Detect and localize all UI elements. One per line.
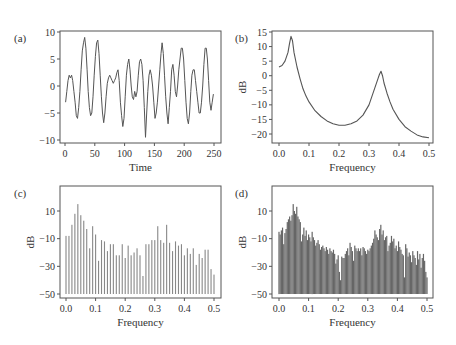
y-tick-label: −5 xyxy=(44,108,55,119)
data-bar xyxy=(71,225,72,294)
data-bar xyxy=(294,211,295,294)
data-bar xyxy=(378,240,379,294)
x-axis-label: Frequency xyxy=(329,316,376,328)
data-bar xyxy=(148,244,149,294)
data-bar xyxy=(328,254,329,294)
data-bar xyxy=(136,248,137,294)
data-bar xyxy=(333,250,334,294)
data-line xyxy=(279,36,429,137)
data-bar xyxy=(327,250,328,294)
data-bar xyxy=(342,258,343,294)
data-bar xyxy=(336,259,337,294)
y-tick-label: −10 xyxy=(251,99,267,110)
x-tick-label: 0.4 xyxy=(391,303,404,314)
data-bar xyxy=(89,248,90,294)
data-bar xyxy=(278,232,279,294)
data-bar xyxy=(289,217,290,295)
data-bar xyxy=(386,236,387,294)
x-tick-label: 0.5 xyxy=(423,148,436,159)
data-bar xyxy=(303,228,304,294)
data-bar xyxy=(345,254,346,294)
data-bar xyxy=(331,251,332,294)
data-bar xyxy=(349,243,350,294)
data-bar xyxy=(119,255,120,294)
data-bar xyxy=(360,248,361,294)
data-bar xyxy=(332,253,333,295)
data-bar xyxy=(291,215,292,294)
data-bar xyxy=(352,251,353,294)
data-bar xyxy=(92,226,93,294)
y-tick-label: −5 xyxy=(256,85,267,96)
data-bar xyxy=(377,237,378,294)
data-bar xyxy=(417,251,418,294)
data-bar xyxy=(361,255,362,294)
data-bar xyxy=(172,251,173,294)
data-bar xyxy=(393,239,394,294)
plot-frame xyxy=(60,31,221,143)
y-axis-label: dB xyxy=(236,81,248,94)
data-bar xyxy=(308,235,309,295)
y-tick-label: 5 xyxy=(262,56,267,67)
data-bar xyxy=(297,217,298,295)
data-bar xyxy=(160,240,161,294)
panel-a-time-series: (a)−10−50510050100150200250Time xyxy=(14,27,222,174)
y-tick-label: 0 xyxy=(262,70,267,81)
x-tick-label: 150 xyxy=(147,148,162,159)
data-bar xyxy=(202,258,203,294)
panel-label: (b) xyxy=(235,32,248,45)
data-bar xyxy=(116,255,117,294)
data-bar xyxy=(210,269,211,294)
x-tick-label: 0.1 xyxy=(89,303,102,314)
data-bar xyxy=(309,237,310,294)
data-bar xyxy=(208,250,209,294)
data-bar xyxy=(359,251,360,294)
data-bar xyxy=(423,254,424,294)
data-line xyxy=(66,37,214,137)
y-tick-label: −50 xyxy=(39,289,55,300)
y-tick-label: −15 xyxy=(251,114,267,125)
y-tick-label: −20 xyxy=(251,129,267,140)
data-bar xyxy=(338,255,339,294)
data-bar xyxy=(312,232,313,294)
data-bar xyxy=(358,248,359,294)
data-bar xyxy=(415,258,416,294)
data-bar xyxy=(151,240,152,294)
data-bar xyxy=(372,243,373,294)
data-bar xyxy=(286,229,287,294)
data-bar xyxy=(128,246,129,294)
x-tick-label: 0.2 xyxy=(333,148,346,159)
x-tick-label: 200 xyxy=(177,148,192,159)
data-bar xyxy=(397,251,398,294)
data-bar xyxy=(390,243,391,294)
data-bar xyxy=(304,236,305,294)
data-bar xyxy=(380,225,381,294)
y-tick-label: 10 xyxy=(257,41,267,52)
data-bar xyxy=(319,244,320,294)
x-tick-label: 250 xyxy=(207,148,222,159)
data-bar xyxy=(367,250,368,294)
panel-label: (d) xyxy=(235,187,248,200)
x-tick-label: 0.3 xyxy=(363,148,376,159)
x-tick-label: 0.2 xyxy=(119,303,132,314)
data-bar xyxy=(351,247,352,294)
data-bar xyxy=(365,251,366,294)
data-bar xyxy=(166,225,167,294)
data-bar xyxy=(77,204,78,294)
x-axis-label: Frequency xyxy=(329,161,376,173)
x-axis-label: Time xyxy=(129,161,152,173)
data-bar xyxy=(335,264,336,294)
data-bar xyxy=(317,240,318,294)
panel-label: (c) xyxy=(14,187,27,200)
data-bar xyxy=(426,277,427,294)
panel-b-spectrum: (b)−20−15−10−50510150.00.10.20.30.40.5Fr… xyxy=(235,27,435,174)
data-bar xyxy=(302,235,303,295)
data-bar xyxy=(184,255,185,294)
data-bar xyxy=(280,235,281,295)
data-bar xyxy=(169,243,170,294)
data-bar xyxy=(199,254,200,294)
data-bar xyxy=(306,230,307,294)
data-bar xyxy=(300,222,301,294)
plot-frame xyxy=(272,31,433,143)
data-bar xyxy=(175,241,176,294)
data-bar xyxy=(323,248,324,294)
